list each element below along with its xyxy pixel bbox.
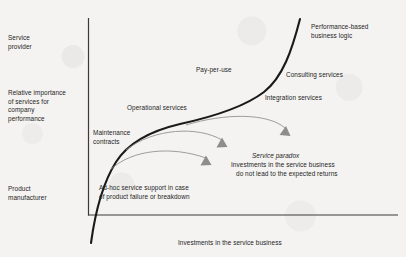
annotation-service-paradox-title: Service paradox — [252, 152, 299, 160]
annotation-service-paradox-line2: do not lead to the expected returns — [236, 170, 338, 178]
service-paradox-arrow-lower — [110, 151, 206, 170]
y-axis-middle-label-line3: company — [8, 106, 35, 114]
label-maintenance-line1: Maintenance — [93, 129, 130, 137]
y-axis-top-label-line2: provider — [8, 43, 32, 51]
label-maintenance-line2: contracts — [93, 138, 120, 146]
y-axis-middle-label-line2: of services for — [8, 98, 49, 106]
y-axis-middle-label-line4: performance — [8, 115, 45, 123]
service-paradox-arrow-middle — [126, 131, 222, 150]
arrowhead-upper — [280, 126, 291, 136]
label-performance-based-line2: business logic — [311, 32, 352, 40]
y-axis-bottom-label-line1: Product — [8, 185, 31, 193]
y-axis-bottom-label-line2: manufacturer — [8, 194, 47, 202]
label-pay-per-use: Pay-per-use — [196, 66, 232, 74]
label-operational-services: Operational services — [127, 104, 187, 112]
label-performance-based-line1: Performance-based — [311, 23, 368, 31]
label-consulting-services: Consulting services — [286, 71, 343, 79]
diagram-canvas: Service provider Relative importance of … — [0, 0, 406, 257]
annotation-adhoc-line2: of product failure or breakdown — [99, 193, 190, 201]
arrowhead-middle — [217, 138, 228, 148]
y-axis-middle-label-line1: Relative importance — [8, 89, 66, 97]
annotation-service-paradox-line1: Investments in the service business — [231, 161, 335, 169]
x-axis-label: Investments in the service business — [178, 239, 282, 247]
annotation-adhoc-line1: Ad-hoc service support in case — [99, 184, 189, 192]
y-axis-top-label-line1: Service — [8, 34, 30, 42]
label-integration-services: Integration services — [265, 94, 322, 102]
